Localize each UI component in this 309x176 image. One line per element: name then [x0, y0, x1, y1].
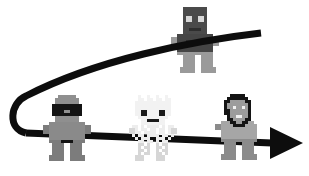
- dark-haired-figure-sprite: [215, 94, 263, 160]
- character-dark-haired-figure: [215, 94, 263, 160]
- gray-visor-figure-sprite: [43, 95, 91, 161]
- scene-canvas: Pixel-art characters on a looping arrow …: [0, 0, 309, 176]
- character-gray-visor-figure: [43, 95, 91, 161]
- white-speckled-figure-sprite: [129, 95, 177, 161]
- character-white-speckled-figure: [129, 95, 177, 161]
